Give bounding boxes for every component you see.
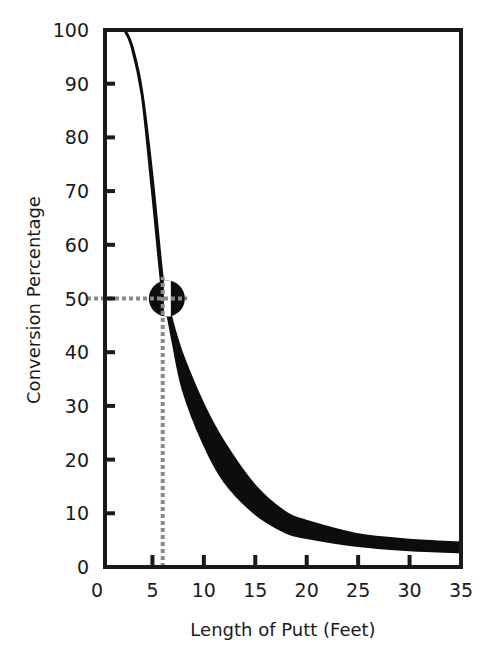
y-axis-title: Conversion Percentage [23, 196, 44, 404]
x-tick-label: 15 [243, 579, 267, 601]
x-tick-label: 10 [192, 579, 216, 601]
y-tick-label: 80 [65, 126, 89, 148]
y-tick-label: 90 [65, 73, 89, 95]
y-tick-label: 50 [65, 288, 89, 310]
x-tick-label: 35 [449, 579, 473, 601]
y-tick-label: 100 [53, 19, 89, 41]
x-tick-label: 25 [346, 579, 370, 601]
y-tick-label: 60 [65, 234, 89, 256]
y-tick-label: 10 [65, 502, 89, 524]
x-tick-label: 20 [295, 579, 319, 601]
y-tick-label: 40 [65, 341, 89, 363]
y-tick-label: 20 [65, 449, 89, 471]
y-tick-label: 70 [65, 180, 89, 202]
x-tick-label: 30 [397, 579, 421, 601]
y-tick-label: 30 [65, 395, 89, 417]
chart: 05101520253035 0102030405060708090100 Le… [0, 0, 489, 657]
x-tick-label: 5 [146, 579, 158, 601]
y-tick-label: 0 [77, 556, 89, 578]
x-axis-ticks: 05101520253035 [91, 555, 473, 601]
x-axis-title: Length of Putt (Feet) [190, 619, 375, 640]
x-tick-label: 0 [91, 579, 103, 601]
